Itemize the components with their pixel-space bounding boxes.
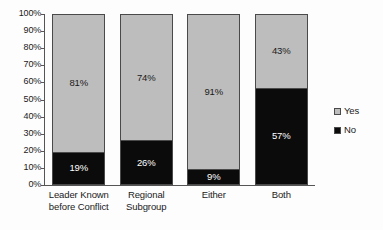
y-tick-mark bbox=[41, 48, 44, 49]
x-tick-label: Leader Knownbefore Conflict bbox=[45, 189, 113, 212]
x-tick-label: RegionalSubgroup bbox=[113, 189, 181, 212]
bar-segment-no[interactable]: 26% bbox=[121, 140, 172, 184]
y-tick-label: 60% bbox=[0, 77, 41, 86]
y-tick-mark bbox=[41, 31, 44, 32]
bar-value-label: 91% bbox=[204, 87, 223, 97]
x-axis-line bbox=[44, 185, 315, 186]
y-tick-label: 100% bbox=[0, 9, 41, 18]
bar-value-label: 57% bbox=[272, 131, 291, 141]
bar-value-label: 9% bbox=[207, 172, 221, 182]
y-tick-label: 40% bbox=[0, 112, 41, 121]
x-axis: Leader Knownbefore ConflictRegionalSubgr… bbox=[45, 189, 315, 227]
bar-value-label: 81% bbox=[69, 78, 88, 88]
y-tick-label: 70% bbox=[0, 60, 41, 69]
bar-stack[interactable]: 74%26% bbox=[120, 14, 173, 185]
bar-segment-yes[interactable]: 81% bbox=[53, 15, 104, 152]
plot-area: 81%19%74%26%91%9%43%57% bbox=[45, 14, 315, 185]
bar-segment-no[interactable]: 19% bbox=[53, 152, 104, 184]
y-tick-mark bbox=[41, 134, 44, 135]
x-tick-label-line: Both bbox=[272, 189, 291, 200]
bar-value-label: 19% bbox=[69, 163, 88, 173]
y-tick-label: 10% bbox=[0, 163, 41, 172]
bar-segment-yes[interactable]: 91% bbox=[188, 15, 239, 169]
y-axis: 100%90%80%70%60%50%40%30%20%10%0% bbox=[0, 0, 41, 230]
x-tick-label-line: Leader Known bbox=[49, 189, 109, 200]
y-tick-mark bbox=[41, 14, 44, 15]
x-tick-label-line: before Conflict bbox=[45, 201, 113, 213]
legend-item[interactable]: No bbox=[334, 123, 383, 137]
bar-stack[interactable]: 91%9% bbox=[187, 14, 240, 185]
y-tick-mark bbox=[41, 65, 44, 66]
y-tick-label: 30% bbox=[0, 129, 41, 138]
legend-label: Yes bbox=[344, 106, 359, 116]
bar-stack[interactable]: 81%19% bbox=[52, 14, 105, 185]
x-tick-label-line: Subgroup bbox=[113, 201, 181, 213]
y-tick-mark bbox=[41, 117, 44, 118]
y-tick-label: 90% bbox=[0, 26, 41, 35]
x-tick-label: Either bbox=[180, 189, 248, 201]
bar-value-label: 43% bbox=[272, 46, 291, 56]
bar-group[interactable]: 43%57% bbox=[255, 14, 308, 185]
y-tick-label: 80% bbox=[0, 43, 41, 52]
legend-swatch-icon bbox=[334, 127, 341, 134]
y-tick-label: 20% bbox=[0, 146, 41, 155]
y-tick-label: 50% bbox=[0, 95, 41, 104]
bar-segment-yes[interactable]: 43% bbox=[256, 15, 307, 88]
stacked-bar-chart: 100%90%80%70%60%50%40%30%20%10%0% 81%19%… bbox=[0, 0, 383, 230]
x-tick-label-line: Regional bbox=[128, 189, 165, 200]
y-tick-label: 0% bbox=[0, 180, 41, 189]
legend-item[interactable]: Yes bbox=[334, 104, 383, 118]
y-tick-mark bbox=[41, 168, 44, 169]
y-tick-mark bbox=[41, 151, 44, 152]
bar-segment-no[interactable]: 57% bbox=[256, 88, 307, 184]
legend-label: No bbox=[344, 125, 356, 135]
legend: YesNo bbox=[334, 104, 383, 142]
y-tick-mark bbox=[41, 100, 44, 101]
bar-value-label: 74% bbox=[137, 73, 156, 83]
y-tick-mark bbox=[41, 185, 44, 186]
bar-group[interactable]: 91%9% bbox=[187, 14, 240, 185]
bar-group[interactable]: 81%19% bbox=[52, 14, 105, 185]
bar-segment-no[interactable]: 9% bbox=[188, 169, 239, 184]
bar-value-label: 26% bbox=[137, 158, 156, 168]
bar-segment-yes[interactable]: 74% bbox=[121, 15, 172, 140]
legend-swatch-icon bbox=[334, 108, 341, 115]
bar-stack[interactable]: 43%57% bbox=[255, 14, 308, 185]
x-tick-label: Both bbox=[248, 189, 316, 201]
y-tick-mark bbox=[41, 82, 44, 83]
bar-group[interactable]: 74%26% bbox=[120, 14, 173, 185]
x-tick-label-line: Either bbox=[202, 189, 226, 200]
